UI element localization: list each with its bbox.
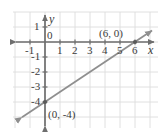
plot-canvas (0, 0, 167, 136)
y-tick-label-neg2: -2 (31, 66, 40, 77)
y-tick-label-1: 1 (34, 21, 40, 32)
x-tick-label-neg1: -1 (25, 45, 34, 56)
x-tick-label-2: 2 (72, 45, 78, 56)
x-tick-label-1: 1 (57, 45, 63, 56)
y-axis-label: y (49, 13, 54, 25)
y-tick-label-neg3: -3 (31, 81, 40, 92)
y-tick-label-neg4: -4 (31, 96, 40, 107)
x-tick-label-3: 3 (87, 45, 93, 56)
x-tick-label-4: 4 (102, 45, 108, 56)
y-intercept-point-label: (0, -4) (48, 109, 76, 120)
point-marker-y-intercept (43, 100, 47, 104)
x-intercept-point-label: (6, 0) (99, 28, 123, 39)
origin-label: 0 (47, 30, 53, 41)
x-axis-label: x (148, 44, 153, 56)
coordinate-graph-figure: y x 0 1 -1 -2 -3 -4 -1 1 2 3 4 5 6 (6, 0… (0, 0, 167, 136)
x-tick-label-5: 5 (117, 45, 123, 56)
x-tick-label-6: 6 (132, 45, 138, 56)
